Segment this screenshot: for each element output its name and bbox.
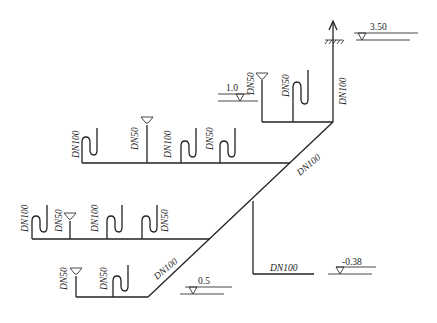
main-pipe: DN100 DN100 bbox=[148, 122, 333, 297]
stack-label: DN100 bbox=[338, 77, 348, 106]
drainage-diagram: DN100 3.50 DN50 DN50 1.0 DN100 DN100 bbox=[0, 0, 437, 323]
vent-stack: DN100 bbox=[325, 21, 348, 122]
s-trap-icon bbox=[220, 128, 235, 163]
fixture-label: DN100 bbox=[163, 130, 173, 159]
level-triangle-icon bbox=[189, 287, 197, 294]
s-trap-icon bbox=[181, 128, 196, 163]
branch-lower-middle: DN100 DN50 DN100 DN50 bbox=[20, 204, 210, 239]
branch-upper-middle: DN100 DN50 DN100 DN50 bbox=[71, 117, 290, 163]
fixture-label: DN50 bbox=[59, 267, 69, 291]
s-trap-icon bbox=[32, 205, 47, 239]
level-triangle-icon bbox=[358, 33, 366, 40]
floor-drain-icon bbox=[141, 117, 153, 163]
s-trap-icon bbox=[293, 70, 308, 122]
fixture-label: DN50 bbox=[281, 74, 291, 98]
fixture-label: DN50 bbox=[54, 209, 64, 233]
fixture-label: DN100 bbox=[20, 204, 30, 233]
branch-bottom: DN50 DN50 bbox=[59, 265, 148, 297]
level-triangle-icon bbox=[236, 94, 244, 101]
fixture-label: DN100 bbox=[71, 130, 81, 159]
svg-text:0.5: 0.5 bbox=[198, 276, 210, 286]
fixture-label: DN50 bbox=[205, 127, 215, 151]
floor-drain-icon bbox=[256, 73, 268, 122]
floor-drain-icon bbox=[70, 268, 82, 297]
outlet-pipe-label: DN100 bbox=[269, 263, 298, 273]
s-trap-icon bbox=[113, 265, 128, 297]
level-marker-roof: 3.50 bbox=[354, 22, 418, 40]
svg-text:1.0: 1.0 bbox=[226, 83, 238, 93]
main-pipe-upper-label: DN100 bbox=[294, 152, 322, 178]
level-triangle-icon bbox=[336, 267, 344, 274]
s-trap-icon bbox=[142, 205, 157, 239]
main-pipe-lower-label: DN100 bbox=[151, 256, 179, 282]
svg-text:-0.38: -0.38 bbox=[342, 257, 362, 267]
fixture-label: DN50 bbox=[160, 209, 170, 233]
branch-top: DN50 DN50 bbox=[246, 70, 333, 122]
fixture-label: DN50 bbox=[99, 267, 109, 291]
outlet-pipe: DN100 bbox=[253, 201, 314, 274]
svg-text:3.50: 3.50 bbox=[370, 22, 387, 32]
level-marker-outlet: -0.38 bbox=[328, 257, 376, 274]
level-marker-floor1: 0.5 bbox=[180, 276, 232, 294]
s-trap-icon bbox=[107, 205, 122, 239]
s-trap-icon bbox=[82, 128, 97, 163]
roof-hatching-icon bbox=[325, 40, 344, 44]
floor-drain-icon bbox=[64, 213, 76, 239]
fixture-label: DN50 bbox=[130, 127, 140, 151]
fixture-label: DN50 bbox=[246, 72, 256, 96]
fixture-label: DN100 bbox=[90, 204, 100, 233]
